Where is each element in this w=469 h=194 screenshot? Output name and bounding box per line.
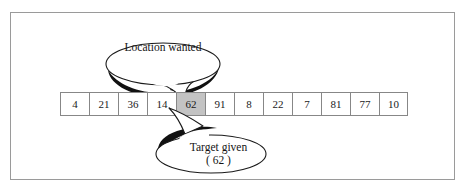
bubble-oval	[156, 135, 266, 173]
array-cell-value: 21	[98, 98, 109, 110]
array-cell-value: 7	[304, 98, 310, 110]
array-cell-2[interactable]: 36	[118, 92, 147, 116]
array-cell-9[interactable]: 81	[321, 92, 350, 116]
array-cell-value: 36	[127, 98, 138, 110]
array-cell-value: 4	[72, 98, 78, 110]
array-cell-value: 81	[330, 98, 341, 110]
array-cell-value: 77	[359, 98, 370, 110]
array-cell-8[interactable]: 7	[292, 92, 321, 116]
array-cell-11[interactable]: 10	[379, 92, 408, 116]
array-cell-10[interactable]: 77	[350, 92, 379, 116]
location-wanted-callout-bubble	[98, 26, 228, 102]
array-cell-1[interactable]: 21	[89, 92, 118, 116]
array-cell-0[interactable]: 4	[60, 92, 89, 116]
diagram-canvas: Location wanted 4 21 36 14 62 91 8 22 7	[0, 0, 469, 194]
target-given-callout-bubble	[155, 108, 285, 184]
array-cell-value: 10	[388, 98, 399, 110]
